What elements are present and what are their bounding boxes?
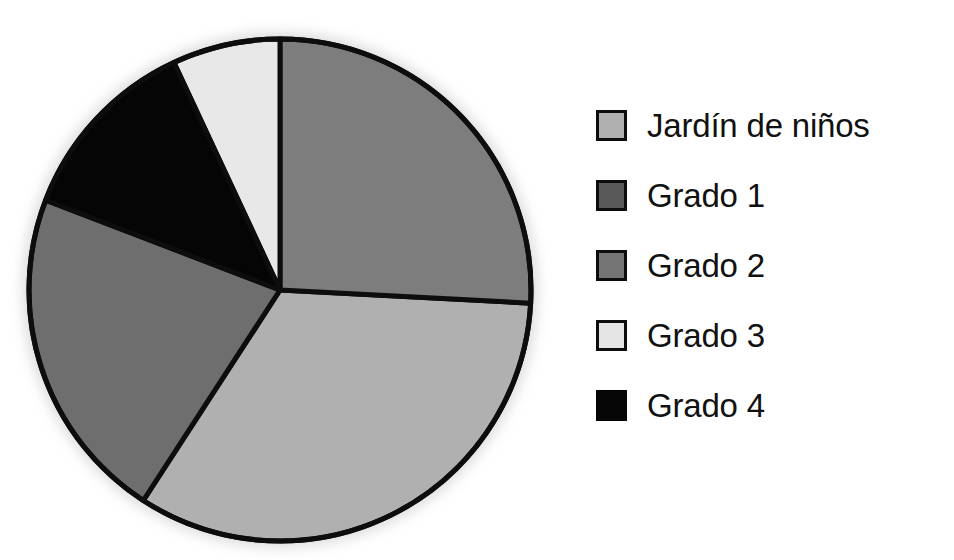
legend-item-label: Jardín de niños bbox=[647, 109, 870, 142]
pie-slice[interactable] bbox=[280, 39, 531, 303]
legend-swatch-icon bbox=[596, 320, 627, 351]
legend-item-label: Grado 3 bbox=[647, 319, 765, 352]
pie-chart-figure: Jardín de niñosGrado 1Grado 2Grado 3Grad… bbox=[0, 0, 954, 560]
legend-item-5[interactable]: Grado 4 bbox=[596, 370, 946, 440]
legend-swatch-icon bbox=[596, 180, 627, 211]
legend-item-3[interactable]: Grado 2 bbox=[596, 230, 946, 300]
legend: Jardín de niñosGrado 1Grado 2Grado 3Grad… bbox=[596, 90, 946, 440]
pie-chart-area bbox=[0, 0, 580, 560]
legend-item-2[interactable]: Grado 1 bbox=[596, 160, 946, 230]
legend-item-label: Grado 4 bbox=[647, 389, 765, 422]
legend-item-label: Grado 2 bbox=[647, 249, 765, 282]
legend-swatch-icon bbox=[596, 390, 627, 421]
legend-swatch-icon bbox=[596, 110, 627, 141]
pie-chart-svg bbox=[0, 0, 580, 560]
legend-swatch-icon bbox=[596, 250, 627, 281]
legend-item-label: Grado 1 bbox=[647, 179, 765, 212]
legend-item-4[interactable]: Grado 3 bbox=[596, 300, 946, 370]
pie-slices-group bbox=[29, 39, 531, 541]
legend-item-1[interactable]: Jardín de niños bbox=[596, 90, 946, 160]
